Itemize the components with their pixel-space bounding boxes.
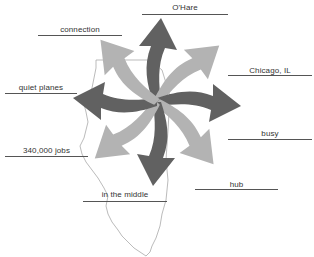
label-jobs: 340,000 jobs xyxy=(5,146,88,155)
rule-ohare xyxy=(142,14,228,15)
rule-quiet-planes xyxy=(5,93,77,94)
pinwheel-diagram: O'Hare connection Chicago, IL quiet plan… xyxy=(0,0,314,257)
label-quiet-planes: quiet planes xyxy=(5,83,77,92)
rule-chicago xyxy=(228,75,312,76)
label-in-the-middle: in the middle xyxy=(83,190,167,199)
label-ohare: O'Hare xyxy=(142,3,228,12)
pinwheel xyxy=(73,18,241,186)
rule-in-the-middle xyxy=(83,201,167,202)
label-hub: hub xyxy=(195,180,278,189)
rule-hub xyxy=(195,189,278,190)
label-busy: busy xyxy=(228,129,312,138)
rule-busy xyxy=(228,139,312,140)
label-connection: connection xyxy=(38,25,122,34)
rule-jobs xyxy=(5,156,88,157)
label-chicago: Chicago, IL xyxy=(228,66,312,75)
rule-connection xyxy=(38,35,122,36)
